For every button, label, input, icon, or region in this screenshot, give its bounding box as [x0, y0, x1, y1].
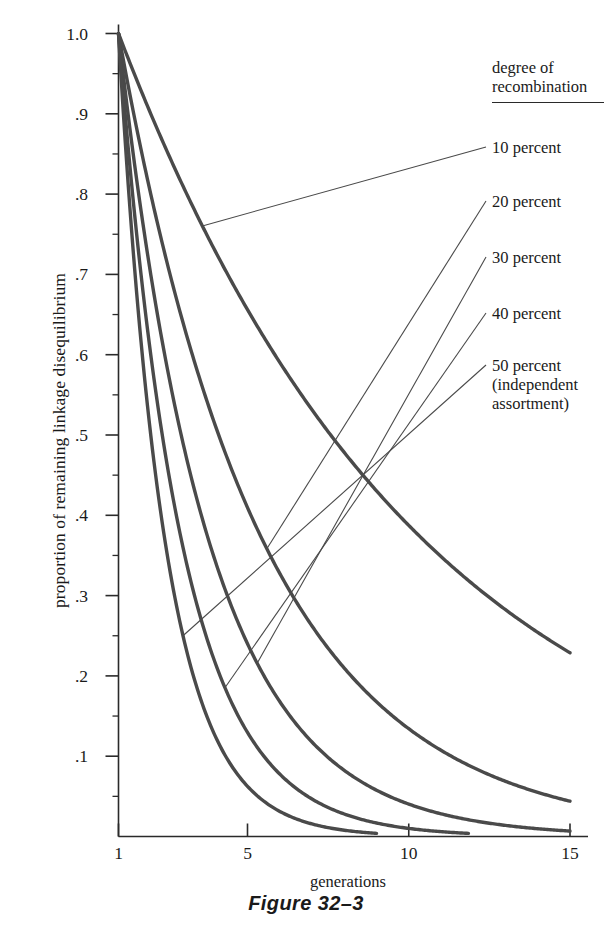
x-axis-title: generations: [118, 872, 578, 892]
legend: degree of recombination: [492, 58, 612, 103]
leader-line-30pct: [257, 257, 486, 663]
x-tick-label: 1: [96, 843, 142, 864]
x-tick-label: 15: [547, 843, 593, 864]
legend-title: degree of recombination: [492, 58, 612, 97]
legend-divider: [492, 102, 604, 103]
figure-container: proportion of remaining linkage disequil…: [0, 0, 612, 927]
y-tick-label: 1.0: [42, 23, 88, 44]
y-tick-label: .7: [42, 264, 88, 285]
x-tick-label: 5: [225, 843, 271, 864]
leader-line-20pct: [267, 201, 486, 549]
figure-caption: Figure 32–3: [0, 892, 612, 915]
leader-line-group: [183, 147, 486, 688]
y-tick-label: .5: [42, 425, 88, 446]
legend-entry-5: 50 percent (independent assortment): [492, 356, 578, 413]
leader-line-10pct: [202, 147, 486, 226]
y-tick-label: .9: [42, 103, 88, 124]
x-tick-label: 10: [386, 843, 432, 864]
leader-line-50pct: [183, 365, 486, 636]
y-tick-label: .8: [42, 184, 88, 205]
leader-line-40pct: [225, 313, 486, 688]
y-tick-label: .1: [42, 746, 88, 767]
y-tick-label: .2: [42, 665, 88, 686]
decay-curve-40pct: [119, 34, 469, 834]
legend-entry-2: 20 percent: [492, 192, 561, 211]
decay-curve-50pct: [119, 34, 377, 834]
legend-entry-1: 10 percent: [492, 138, 561, 157]
legend-entry-4: 40 percent: [492, 304, 561, 323]
y-tick-label: .6: [42, 344, 88, 365]
y-tick-label: .3: [42, 585, 88, 606]
y-tick-label: .4: [42, 505, 88, 526]
legend-entry-3: 30 percent: [492, 248, 561, 267]
y-tick-label-group: .1.2.3.4.5.6.7.8.91.0: [42, 0, 88, 927]
